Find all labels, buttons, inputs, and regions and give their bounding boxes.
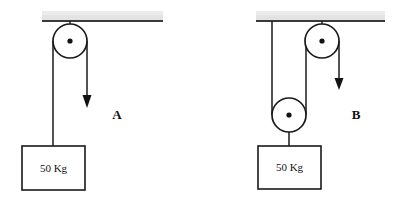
pull-direction-arrow-b: [335, 78, 344, 90]
system-a-group: 50 Kg A: [22, 11, 163, 190]
system-b-group: 50 Kg B: [256, 11, 385, 189]
pulley-diagram-figure: 50 Kg A: [0, 0, 393, 199]
arrowhead-b: [335, 78, 344, 90]
pulley-hub-b-fixed: [319, 38, 324, 43]
ceiling-support-a: [42, 11, 163, 21]
fixed-pulley-a: [53, 24, 87, 58]
mass-block-b: 50 Kg: [258, 146, 321, 189]
system-b-label: B: [352, 107, 361, 122]
pulley-figure-canvas: 50 Kg A: [0, 0, 393, 199]
mass-block-a-label: 50 Kg: [40, 162, 68, 174]
fixed-pulley-b: [305, 24, 339, 58]
mass-block-b-label: 50 Kg: [276, 161, 304, 173]
movable-pulley-b: [272, 98, 306, 132]
pull-direction-arrow-a: [83, 95, 92, 108]
ceiling-bar-b-shade: [256, 11, 385, 15]
system-a-label: A: [112, 107, 122, 122]
pulley-hub-b-movable: [286, 112, 291, 117]
pulley-hub-a: [67, 38, 72, 43]
arrowhead-a: [83, 95, 92, 108]
ceiling-support-b: [256, 11, 385, 21]
mass-block-a: 50 Kg: [22, 146, 85, 190]
ceiling-bar-a-shade: [42, 11, 163, 15]
